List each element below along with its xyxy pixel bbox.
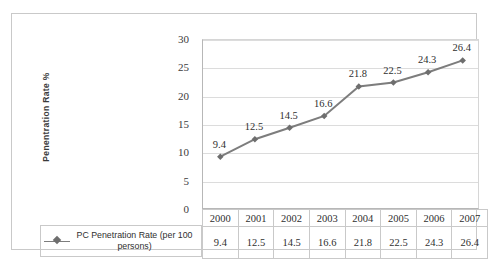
table-cell-value: 22.5 <box>381 227 417 259</box>
table-cell-year: 2004 <box>345 210 381 227</box>
data-point-label: 9.4 <box>213 139 226 150</box>
table-cell-year: 2006 <box>416 210 452 227</box>
table-row-values: 9.412.514.516.621.822.524.326.4 <box>203 227 488 259</box>
plot-area: 9.412.514.516.621.822.524.326.4 <box>202 39 479 209</box>
data-point-label: 21.8 <box>349 68 367 79</box>
table-cell-value: 24.3 <box>416 227 452 259</box>
data-point-label: 16.6 <box>314 98 332 109</box>
table-cell-value: 26.4 <box>452 227 488 259</box>
table-row-years: 20002001200220032004200520062007 <box>203 210 488 227</box>
y-axis-tick-labels: 302520151050 <box>164 39 194 209</box>
legend-line-diamond-marker-icon <box>44 236 70 247</box>
table-cell-value: 16.6 <box>309 227 345 259</box>
data-point-label: 24.3 <box>418 54 436 65</box>
table-cell-year: 2001 <box>238 210 274 227</box>
y-axis-tick-label: 15 <box>178 119 189 129</box>
table-cell-year: 2005 <box>381 210 417 227</box>
y-axis-tick-label: 5 <box>184 176 190 186</box>
table-cell-year: 2007 <box>452 210 488 227</box>
y-axis-tick-label: 20 <box>178 91 189 101</box>
y-axis-tick-label: 30 <box>178 34 189 44</box>
data-point-label: 12.5 <box>245 121 263 132</box>
data-table: 20002001200220032004200520062007 9.412.5… <box>202 209 488 259</box>
table-cell-value: 12.5 <box>238 227 274 259</box>
table-cell-year: 2000 <box>203 210 239 227</box>
data-point-label: 26.4 <box>453 42 471 53</box>
legend: PC Penetration Rate (per 100 persons) <box>40 225 202 257</box>
data-point-label: 14.5 <box>279 110 297 121</box>
table-cell-year: 2002 <box>274 210 310 227</box>
legend-label: PC Penetration Rate (per 100 persons) <box>72 230 201 252</box>
y-axis-tick-label: 10 <box>178 147 189 157</box>
y-axis-title: Penentration Rate % <box>39 42 53 192</box>
table-cell-value: 21.8 <box>345 227 381 259</box>
y-axis-tick-label: 25 <box>178 62 189 72</box>
y-axis-tick-label: 0 <box>184 204 190 214</box>
table-cell-value: 14.5 <box>274 227 310 259</box>
table-cell-year: 2003 <box>309 210 345 227</box>
data-point-label: 22.5 <box>383 65 401 76</box>
table-cell-value: 9.4 <box>203 227 239 259</box>
chart-frame: Penentration Rate % 302520151050 9.412.5… <box>11 13 477 250</box>
